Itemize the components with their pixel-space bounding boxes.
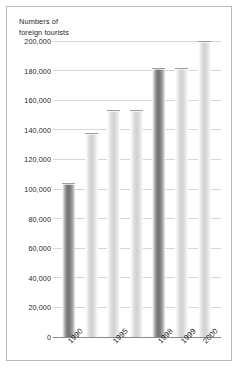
- bar: [62, 183, 75, 337]
- gridline: [53, 41, 221, 42]
- bar-cap: [85, 133, 98, 135]
- y-tick-label: 120,000: [9, 155, 51, 164]
- bar-cap: [152, 68, 165, 70]
- bar: [198, 41, 211, 337]
- y-tick-label: 200,000: [9, 37, 51, 46]
- bar: [107, 110, 120, 337]
- bar-cap: [107, 110, 120, 112]
- y-tick-label: 40,000: [9, 273, 51, 282]
- plot-area: [53, 41, 221, 337]
- x-axis-labels: 19901995199819992000: [53, 337, 221, 374]
- y-tick-label: 60,000: [9, 244, 51, 253]
- y-tick-label: 0: [9, 333, 51, 342]
- chart-figure: Numbers of foreign tourists 020,00040,00…: [6, 6, 232, 361]
- bar: [130, 110, 143, 337]
- chart-title: Numbers of foreign tourists: [19, 17, 139, 38]
- y-tick-label: 100,000: [9, 185, 51, 194]
- y-tick-label: 180,000: [9, 66, 51, 75]
- bar-cap: [175, 68, 188, 70]
- gridline: [53, 100, 221, 101]
- bar-cap: [130, 110, 143, 112]
- bar-cap: [62, 183, 75, 185]
- y-axis-labels: 020,00040,00060,00080,000100,000120,0001…: [7, 41, 51, 337]
- y-tick-label: 140,000: [9, 125, 51, 134]
- y-tick-label: 80,000: [9, 214, 51, 223]
- y-tick-label: 160,000: [9, 96, 51, 105]
- bar: [152, 68, 165, 337]
- bar-cap: [198, 41, 211, 43]
- gridline: [53, 70, 221, 71]
- bar: [85, 133, 98, 337]
- bar: [175, 68, 188, 337]
- y-tick-label: 20,000: [9, 303, 51, 312]
